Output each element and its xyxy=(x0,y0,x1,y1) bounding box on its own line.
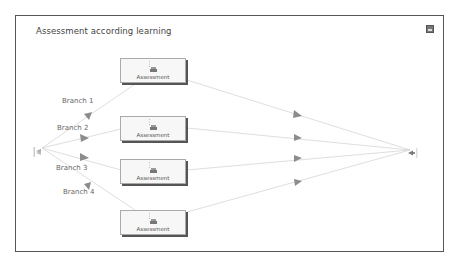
assessment-node-1[interactable]: Assessment xyxy=(120,58,186,83)
assessment-label: Assessment xyxy=(121,226,185,232)
assessment-label: Assessment xyxy=(121,175,185,181)
assessment-node-2[interactable]: Assessment xyxy=(120,116,186,141)
arrow-icon xyxy=(294,155,302,162)
assessment-icon xyxy=(148,119,158,131)
arrow-icon xyxy=(294,134,302,141)
branch-label-2: Branch 2 xyxy=(57,124,88,132)
assessment-label: Assessment xyxy=(121,132,185,138)
branch-label-3: Branch 3 xyxy=(56,164,87,172)
assessment-node-3[interactable]: Assessment xyxy=(120,159,186,184)
edge-assessment-3-to-end xyxy=(187,150,410,170)
assessment-icon xyxy=(148,213,158,225)
arrow-icon xyxy=(80,134,89,142)
assessment-node-4[interactable]: Assessment xyxy=(120,210,186,235)
arrow-icon xyxy=(293,110,302,118)
split-gateway-icon[interactable] xyxy=(33,143,43,155)
merge-gateway-icon[interactable] xyxy=(408,144,418,156)
arrow-icon xyxy=(84,112,92,120)
assessment-icon xyxy=(148,162,158,174)
assessment-icon xyxy=(148,61,158,73)
branch-label-1: Branch 1 xyxy=(62,97,93,105)
edges-layer xyxy=(0,0,454,264)
assessment-label: Assessment xyxy=(121,74,185,80)
branch-label-4: Branch 4 xyxy=(63,188,94,196)
